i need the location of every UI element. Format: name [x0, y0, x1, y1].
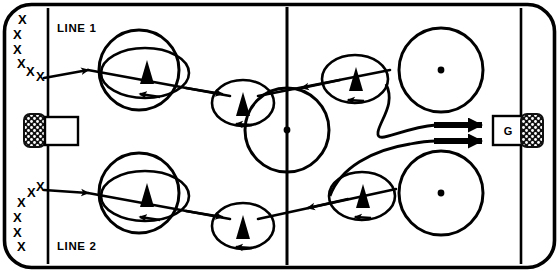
skater-mark: X — [17, 56, 26, 71]
goal-crease-left — [45, 117, 78, 145]
curl-arrow-5 — [236, 247, 252, 248]
rink-canvas: G X X X X X X X X X X X X — [0, 0, 559, 272]
goalie-label: G — [504, 125, 513, 137]
skater-mark: X — [13, 42, 22, 57]
goal-right: G — [493, 114, 543, 147]
center-faceoff-dot — [284, 127, 291, 134]
skater-mark: X — [26, 64, 35, 79]
goal-net-left — [24, 114, 45, 147]
skater-mark: X — [17, 239, 26, 254]
goal-left — [24, 114, 78, 147]
skater-mark: X — [13, 225, 22, 240]
skater-mark: X — [36, 179, 45, 194]
skater-mark: X — [13, 210, 22, 225]
rink-boards — [5, 5, 555, 268]
skater-mark: X — [36, 69, 45, 84]
faceoff-dot-right-top — [438, 67, 445, 74]
curl-arrow-2 — [236, 124, 252, 125]
faceoff-dot-right-bottom — [438, 190, 445, 197]
curl-arrow-6 — [355, 217, 371, 218]
goal-net-right — [521, 114, 543, 147]
hockey-rink-diagram: G X X X X X X X X X X X X — [0, 0, 559, 272]
skater-mark: X — [18, 12, 27, 27]
skater-mark: X — [13, 27, 22, 42]
line1-label: LINE 1 — [57, 22, 96, 34]
curl-arrow-3 — [348, 100, 364, 101]
skater-mark: X — [17, 195, 26, 210]
skater-mark: X — [27, 185, 36, 200]
rink-outer-boards — [5, 5, 555, 268]
line2-label: LINE 2 — [57, 240, 96, 252]
